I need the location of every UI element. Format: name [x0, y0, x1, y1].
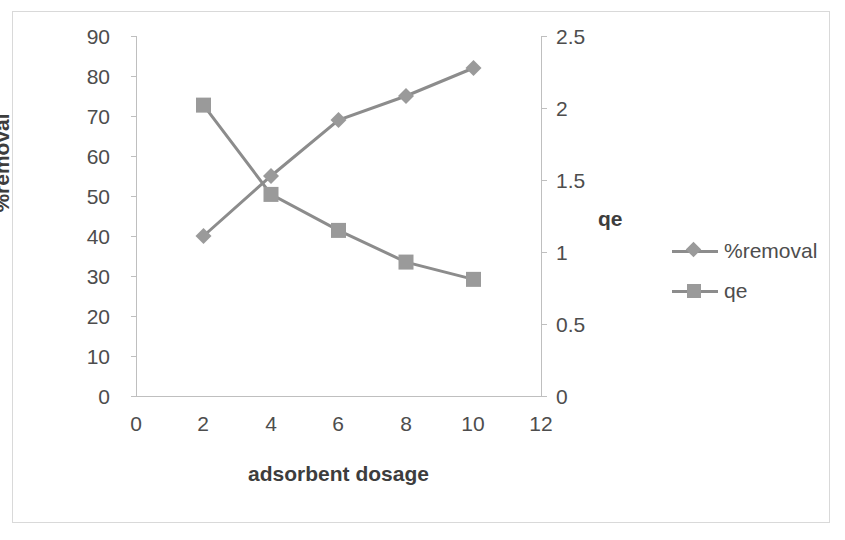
x-axis-title: adsorbent dosage: [136, 462, 541, 486]
y-axis-tick-mark: [131, 156, 136, 157]
y-axis-tick-mark: [131, 236, 136, 237]
secondary-y-axis-tick-mark: [542, 180, 547, 181]
x-axis-tick-label: 4: [241, 413, 301, 434]
x-axis-tick-label: 0: [106, 413, 166, 434]
secondary-y-axis-tick-mark: [542, 396, 547, 397]
y-axis-tick-label: 60: [50, 146, 110, 167]
secondary-y-axis-tick-mark: [542, 252, 547, 253]
secondary-y-axis-tick-mark: [542, 36, 547, 37]
y-axis-tick-label: 20: [50, 306, 110, 327]
secondary-y-axis-tick-label: 0.5: [556, 314, 616, 335]
x-axis-tick-label: 6: [308, 413, 368, 434]
secondary-y-axis-tick-mark: [542, 324, 547, 325]
y-axis-tick-label: 10: [50, 346, 110, 367]
y-axis-tick-label: 80: [50, 66, 110, 87]
primary-y-axis-line: [136, 36, 137, 397]
y-axis-tick-mark: [131, 356, 136, 357]
secondary-y-axis-tick-label: 1.5: [556, 170, 616, 191]
y-axis-tick-label: 70: [50, 106, 110, 127]
x-axis-tick-label: 8: [376, 413, 436, 434]
diamond-marker-icon: [672, 242, 718, 260]
y-axis-title: %removal: [0, 88, 14, 238]
legend-label: %removal: [724, 239, 817, 263]
y-axis-tick-mark: [131, 76, 136, 77]
x-axis-line: [136, 396, 542, 397]
y-axis-tick-label: 30: [50, 266, 110, 287]
y-axis-tick-mark: [131, 316, 136, 317]
secondary-y-axis-line: [541, 36, 542, 397]
secondary-y-axis-tick-label: 2.5: [556, 26, 616, 47]
y-axis-tick-label: 40: [50, 226, 110, 247]
secondary-y-axis-tick-mark: [542, 108, 547, 109]
y-axis-tick-label: 0: [50, 386, 110, 407]
x-axis-tick-label: 2: [173, 413, 233, 434]
square-marker-icon: [672, 282, 718, 300]
secondary-y-axis-tick-label: 0: [556, 386, 616, 407]
secondary-y-axis-tick-label: 2: [556, 98, 616, 119]
secondary-y-axis-tick-label: 1: [556, 242, 616, 263]
y-axis-tick-label: 50: [50, 186, 110, 207]
y-axis-tick-mark: [131, 116, 136, 117]
secondary-y-axis-title: qe: [598, 207, 623, 231]
chart-figure: 90 80 70 60 50 40 30 20 10 0 2.5 2 1.5 1…: [0, 0, 845, 540]
chart-legend: %removal qe: [672, 231, 832, 311]
x-axis-tick-label: 10: [443, 413, 503, 434]
y-axis-tick-mark: [131, 276, 136, 277]
y-axis-tick-label: 90: [50, 26, 110, 47]
y-axis-tick-mark: [131, 396, 136, 397]
y-axis-tick-mark: [131, 36, 136, 37]
legend-item-qe[interactable]: qe: [672, 271, 832, 311]
legend-label: qe: [724, 279, 747, 303]
legend-item-removal[interactable]: %removal: [672, 231, 832, 271]
x-axis-tick-label: 12: [511, 413, 571, 434]
y-axis-tick-mark: [131, 196, 136, 197]
